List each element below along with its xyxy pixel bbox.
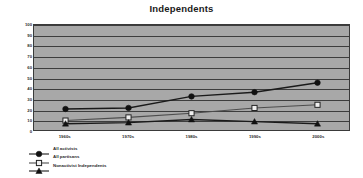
y-tick-label: 80 — [18, 43, 32, 48]
x-tick-label: 2000s — [312, 134, 324, 139]
y-tick-label: 70 — [18, 54, 32, 59]
data-point-marker — [315, 80, 321, 85]
x-tick-label: 1990s — [249, 134, 261, 139]
y-tick-label: 30 — [18, 96, 32, 101]
chart-title: Independents — [0, 3, 363, 14]
data-point-marker — [315, 102, 320, 107]
data-point-marker — [63, 106, 69, 111]
legend-item: All partisans — [28, 153, 228, 161]
x-axis-tick-labels: 1960s1970s1980s1990s2000s — [33, 134, 350, 143]
y-tick-label: 20 — [18, 107, 32, 112]
y-tick-label: 50 — [18, 75, 32, 80]
legend-label: Nonactivist Independents — [53, 163, 106, 168]
y-tick-label: 90 — [18, 32, 32, 37]
y-tick-label: 100 — [18, 22, 32, 27]
y-tick-label: 60 — [18, 64, 32, 69]
y-tick-label: 40 — [18, 86, 32, 91]
filled-triangle-icon — [28, 161, 50, 169]
filled-circle-icon — [28, 144, 50, 152]
y-tick-label: 0 — [18, 129, 32, 134]
legend-item: All activists — [28, 144, 228, 152]
x-tick-label: 1960s — [59, 134, 71, 139]
legend-label: All partisans — [53, 154, 79, 159]
data-point-marker — [126, 105, 132, 110]
chart-container: Independents Average Difference in Therm… — [0, 0, 363, 178]
chart-legend: All activistsAll partisansNonactivist In… — [28, 144, 228, 170]
plot-area — [33, 24, 350, 131]
plot-series-layer — [34, 25, 349, 130]
data-point-marker — [252, 89, 258, 94]
open-square-icon — [28, 153, 50, 161]
data-point-marker — [189, 94, 195, 99]
x-tick-label: 1980s — [186, 134, 198, 139]
legend-label: All activists — [53, 146, 77, 151]
x-tick-label: 1970s — [122, 134, 134, 139]
series-nonactivist-independents — [62, 116, 320, 126]
y-tick-label: 10 — [18, 118, 32, 123]
legend-item: Nonactivist Independents — [28, 161, 228, 169]
data-point-marker — [252, 105, 257, 110]
data-point-marker — [189, 111, 194, 116]
